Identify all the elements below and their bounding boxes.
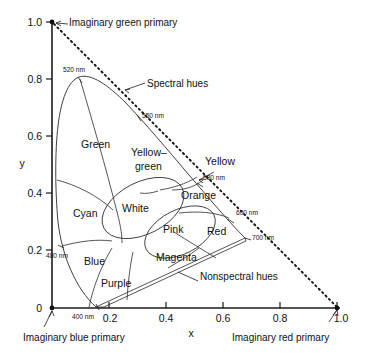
annotation-nonspectral-hues: Nonspectral hues <box>200 271 278 282</box>
region-label-magenta: Magenta <box>156 251 197 263</box>
wavelength-label-480: 480 nm <box>46 252 69 259</box>
leader-nonspectral-hues <box>178 272 198 281</box>
region-label-orange: Orange <box>181 189 216 201</box>
x-axis-label: x <box>188 327 194 339</box>
region-label-yellow-green-2: green <box>135 160 162 172</box>
region-label-blue: Blue <box>84 255 105 267</box>
y-tick-label-1.0: 1.0 <box>27 16 42 28</box>
region-label-yellow-green-1: Yellow– <box>131 146 167 158</box>
y-tick-label-0.6: 0.6 <box>27 130 42 142</box>
boundary-yellowgreen-white <box>140 191 158 193</box>
wavelength-label-580: 580 nm <box>203 174 226 181</box>
arrowhead-spectral-hues <box>125 89 130 93</box>
x-tick-label-0.4: 0.4 <box>159 312 174 324</box>
chromaticity-diagram-figure: 1.0 0.8 0.6 0.4 0.2 0 0.2 0.4 0.6 0.8 1.… <box>0 0 365 357</box>
x-tick-label-0.8: 0.8 <box>273 312 288 324</box>
region-label-red: Red <box>207 225 226 237</box>
x-tick-label-1.0: 1.0 <box>334 312 349 324</box>
y-tick-label-0.4: 0.4 <box>27 187 42 199</box>
region-label-purple: Purple <box>101 277 132 289</box>
vertex-dot-blue-primary <box>50 306 55 311</box>
y-tick-label-0: 0 <box>36 302 42 314</box>
boundary-purple-magenta <box>127 252 133 300</box>
region-label-cyan: Cyan <box>73 207 98 219</box>
leader-lines-group <box>44 21 338 327</box>
annotation-imaginary-green-primary: Imaginary green primary <box>69 17 177 28</box>
x-tick-label-0.6: 0.6 <box>216 312 231 324</box>
annotation-imaginary-red-primary: Imaginary red primary <box>232 332 329 343</box>
y-tick-label-0.2: 0.2 <box>27 244 42 256</box>
boundary-cyan-blue <box>62 240 112 246</box>
region-label-pink: Pink <box>163 223 184 235</box>
region-label-white: White <box>122 202 149 214</box>
annotation-spectral-hues: Spectral hues <box>147 78 208 89</box>
y-tick-label-0.8: 0.8 <box>27 73 42 85</box>
wavelength-label-400: 400 nm <box>72 313 95 320</box>
chromaticity-diagram-svg: 1.0 0.8 0.6 0.4 0.2 0 0.2 0.4 0.6 0.8 1.… <box>0 0 365 357</box>
y-axis-label: y <box>19 157 25 169</box>
region-label-green: Green <box>81 138 110 150</box>
wavelength-label-520: 520 nm <box>63 66 86 73</box>
x-tick-label-0.2: 0.2 <box>103 312 118 324</box>
leader-spectral-hues <box>125 83 145 90</box>
arrowhead-blue-primary <box>49 311 54 317</box>
wavelength-label-550: 550 nm <box>142 112 165 119</box>
boundary-green-cyan <box>57 180 113 210</box>
annotation-imaginary-blue-primary: Imaginary blue primary <box>23 332 125 343</box>
wavelength-label-600: 600 nm <box>236 209 259 216</box>
wavelength-label-700: 700 nm <box>252 234 275 241</box>
region-label-yellow: Yellow <box>205 155 235 167</box>
wavelength-tick-550 <box>137 115 141 121</box>
